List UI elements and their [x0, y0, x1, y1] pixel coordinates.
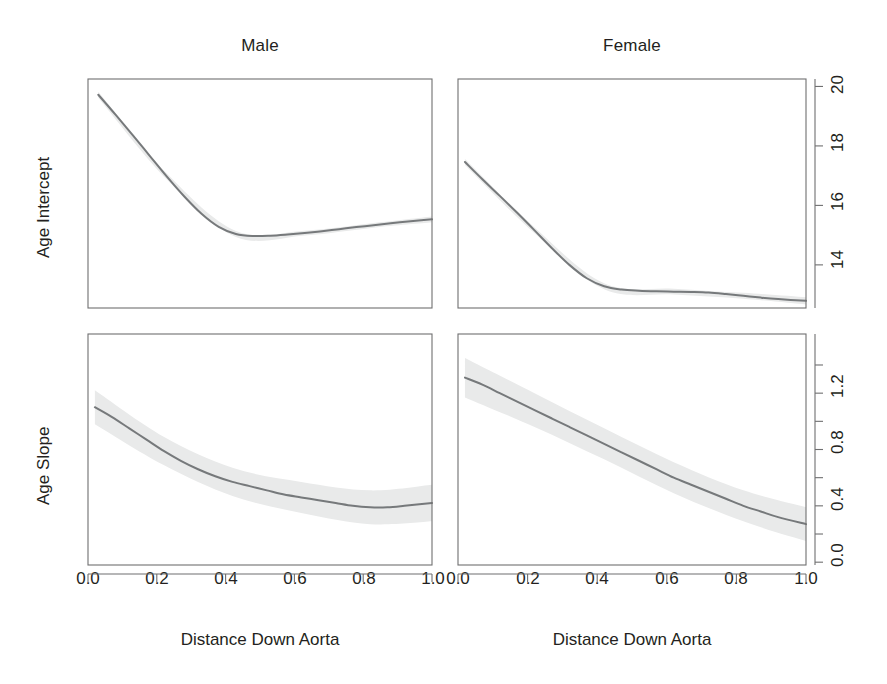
plot-svg — [0, 0, 887, 684]
confidence-band-bottom-right — [465, 358, 806, 541]
panel-top-right — [458, 79, 806, 308]
fit-line-top-right — [465, 162, 806, 301]
confidence-band-bottom-left — [95, 390, 432, 524]
panel-top-left — [88, 79, 432, 308]
figure-canvas: Male Female Age Intercept Age Slope Dist… — [0, 0, 887, 684]
confidence-band-top-left — [98, 92, 432, 241]
panel-bottom-right — [458, 334, 806, 565]
panel-bottom-left — [88, 334, 432, 565]
panel-frame-top-left — [88, 79, 432, 308]
panel-frame-top-right — [458, 79, 806, 308]
fit-line-top-left — [98, 95, 432, 236]
confidence-band-top-right — [465, 159, 806, 304]
